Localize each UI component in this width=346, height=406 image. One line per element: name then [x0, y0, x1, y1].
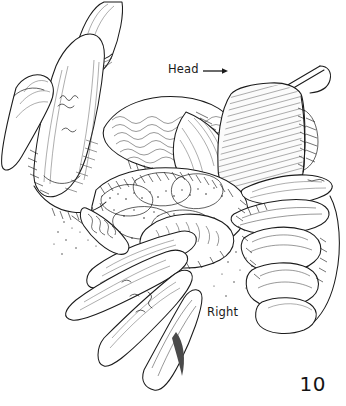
- label-head-text: Head: [168, 64, 199, 76]
- label-head: Head: [168, 64, 229, 76]
- figure-number: 10: [300, 374, 326, 394]
- figure-container: Head Right 10: [0, 0, 346, 406]
- label-right: Right: [207, 307, 238, 319]
- surgical-illustration: [0, 0, 346, 406]
- arrow-right-icon: [203, 66, 229, 74]
